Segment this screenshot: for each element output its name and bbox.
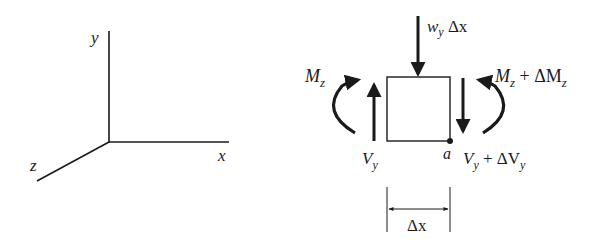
point-a-label: a	[443, 145, 451, 162]
distributed-load: wy Δx	[418, 16, 468, 74]
left-shear-label: Vy	[362, 149, 378, 172]
dimension-label: Δx	[407, 216, 427, 235]
y-axis-label: y	[89, 28, 99, 47]
right-moment: Mz + ΔMz	[479, 66, 567, 133]
left-shear-force: Vy	[362, 85, 378, 172]
z-axis	[37, 142, 109, 181]
load-label: wy Δx	[427, 17, 468, 39]
beam-element	[387, 77, 450, 141]
right-shear-label: Vy + ΔVy	[463, 149, 526, 172]
beam-element-diagram: y x z a wy Δx Vy Vy + ΔVy Mz Mz + ΔMz Δx	[0, 0, 616, 252]
z-axis-label: z	[29, 156, 37, 175]
right-moment-label: Mz + ΔMz	[494, 66, 567, 90]
left-moment: Mz	[304, 66, 358, 133]
right-moment-arrow	[479, 80, 504, 133]
dimension-dx: Δx	[387, 187, 450, 235]
coordinate-axes: y x z	[29, 28, 229, 181]
x-axis-label: x	[217, 146, 226, 165]
point-a-marker	[447, 138, 453, 144]
left-moment-arrow	[334, 80, 358, 133]
left-moment-label: Mz	[304, 66, 325, 90]
